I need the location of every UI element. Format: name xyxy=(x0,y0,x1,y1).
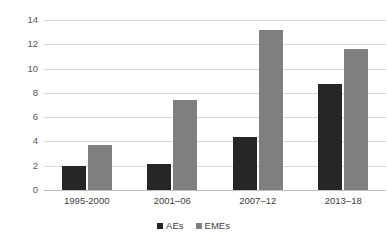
legend-label: EMEs xyxy=(205,221,230,231)
y-axis-tick-label: 0 xyxy=(8,185,38,195)
bar-group xyxy=(130,20,216,190)
bar-aes-1 xyxy=(147,164,171,190)
legend-swatch-icon xyxy=(157,223,163,229)
y-axis-tick-label: 14 xyxy=(8,15,38,25)
y-axis-tick-label: 12 xyxy=(8,40,38,50)
bar-emes-0 xyxy=(88,145,112,190)
x-axis-category-label: 2007–12 xyxy=(215,196,301,206)
bar-group xyxy=(301,20,387,190)
bar-emes-1 xyxy=(173,100,197,190)
y-axis-tick-label: 2 xyxy=(8,161,38,171)
bar-group xyxy=(44,20,130,190)
gridline xyxy=(44,190,386,191)
x-axis-category-label: 1995-2000 xyxy=(44,196,130,206)
legend-item-aes[interactable]: AEs xyxy=(157,221,183,231)
legend-item-emes[interactable]: EMEs xyxy=(196,221,230,231)
legend-swatch-icon xyxy=(196,223,202,229)
plot-area xyxy=(44,20,386,190)
bar-aes-0 xyxy=(62,166,86,190)
legend-label: AEs xyxy=(166,221,183,231)
chart-legend: AEsEMEs xyxy=(0,221,387,231)
bar-emes-2 xyxy=(259,30,283,190)
bar-emes-3 xyxy=(344,49,368,190)
bar-chart: 02468101214 1995-20002001–062007–122013–… xyxy=(0,0,387,242)
bar-group xyxy=(215,20,301,190)
y-axis-tick-label: 8 xyxy=(8,88,38,98)
bar-aes-2 xyxy=(233,137,257,190)
bar-aes-3 xyxy=(318,84,342,190)
y-axis-tick-label: 4 xyxy=(8,137,38,147)
x-axis-category-label: 2001–06 xyxy=(130,196,216,206)
y-axis-tick-label: 10 xyxy=(8,64,38,74)
y-axis-tick-label: 6 xyxy=(8,112,38,122)
x-axis-category-label: 2013–18 xyxy=(301,196,387,206)
